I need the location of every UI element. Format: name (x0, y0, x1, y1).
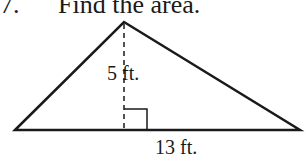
triangle-outline (15, 22, 300, 130)
right-angle-marker (124, 109, 147, 130)
triangle-figure (0, 0, 306, 163)
height-label: 5 ft. (107, 62, 139, 85)
base-label: 13 ft. (155, 136, 197, 159)
